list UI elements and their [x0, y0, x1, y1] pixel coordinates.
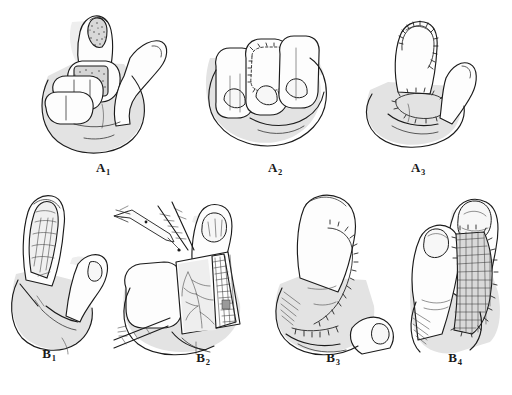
panel-a2: A2: [190, 14, 345, 154]
recipient-finger-b3: [297, 195, 355, 292]
little-finger-a1: [45, 92, 93, 124]
panel-label-b2: B2: [186, 350, 220, 366]
figure-plate: A1: [0, 0, 512, 395]
panel-a3: A3: [348, 14, 488, 154]
panel-b2: B2: [112, 192, 264, 354]
panel-b3: B3: [266, 192, 401, 354]
panel-b1: B1: [4, 188, 129, 353]
panel-label-a1: A1: [86, 160, 120, 176]
forceps-upper-b2: [114, 210, 181, 252]
panel-a1: A1: [12, 4, 187, 156]
traction-sutures-b2: [158, 202, 194, 250]
thumb-a3: [440, 63, 476, 124]
panel-label-a3: A3: [401, 160, 435, 176]
donor-finger-b2: [125, 262, 182, 328]
nail-b2: [202, 213, 227, 242]
panel-label-b3: B3: [316, 350, 350, 366]
panel-label-b4: B4: [438, 350, 472, 366]
panel-label-b1: B1: [32, 346, 66, 362]
panel-label-a2: A2: [258, 160, 292, 176]
panel-b4: B4: [400, 192, 510, 354]
